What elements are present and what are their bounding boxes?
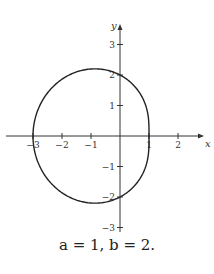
x-tick-label: −1 [84,140,97,150]
y-tick-label: −1 [102,162,115,172]
polar-curve-plot: xy−3−2−112321−1−2−3 [0,0,214,274]
y-tick-label: 3 [109,40,115,50]
figure-caption: a = 1, b = 2. [0,236,214,254]
y-tick-label: −3 [102,223,116,233]
x-tick-label: 2 [175,140,181,150]
y-axis-arrow-icon [118,24,123,30]
y-tick-label: 1 [109,101,115,111]
axes: xy−3−2−112321−1−2−3 [6,20,211,233]
x-tick-label: −2 [55,140,68,150]
x-axis-arrow-icon [198,134,204,139]
y-axis-label: y [110,20,117,31]
x-axis-label: x [205,138,211,149]
